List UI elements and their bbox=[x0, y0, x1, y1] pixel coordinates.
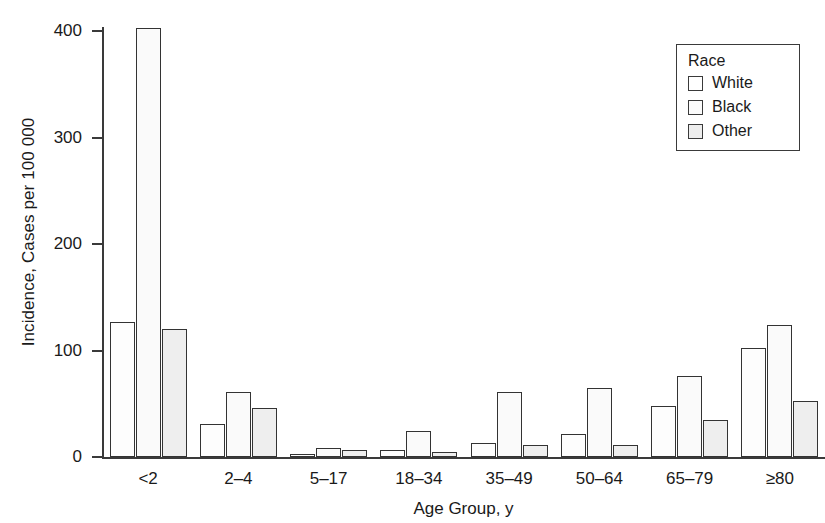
legend-entries: WhiteBlackOther bbox=[688, 71, 799, 143]
legend-swatch-icon bbox=[688, 124, 703, 139]
legend-item-other: Other bbox=[688, 119, 799, 143]
bar-white-0 bbox=[110, 322, 135, 457]
legend-item-black: Black bbox=[688, 95, 799, 119]
x-axis-group-label: 18–34 bbox=[374, 470, 464, 488]
x-axis-group-label: 65–79 bbox=[645, 470, 735, 488]
bar-other-1 bbox=[252, 408, 277, 457]
bar-other-7 bbox=[793, 401, 818, 457]
x-axis-group-label: ≥80 bbox=[735, 470, 825, 488]
bar-white-3 bbox=[380, 450, 405, 457]
x-axis-line bbox=[102, 457, 825, 459]
bar-white-1 bbox=[200, 424, 225, 457]
legend-item-label: White bbox=[712, 74, 753, 92]
bar-black-2 bbox=[316, 448, 341, 457]
bar-black-6 bbox=[677, 376, 702, 457]
legend-item-label: Black bbox=[712, 98, 751, 116]
y-axis-tick-label: 300 bbox=[12, 129, 82, 146]
y-axis-tick-label: 100 bbox=[12, 342, 82, 359]
bar-black-7 bbox=[767, 325, 792, 457]
bar-other-2 bbox=[342, 450, 367, 457]
legend-box: Race WhiteBlackOther bbox=[676, 44, 800, 151]
bar-white-6 bbox=[651, 406, 676, 457]
bar-chart-figure: Incidence, Cases per 100 000 01002003004… bbox=[0, 0, 825, 523]
x-axis-group-label: <2 bbox=[103, 470, 193, 488]
bar-other-5 bbox=[613, 445, 638, 457]
bar-black-5 bbox=[587, 388, 612, 457]
bar-black-4 bbox=[497, 392, 522, 457]
bar-white-7 bbox=[741, 348, 766, 457]
y-axis-tick-label: 400 bbox=[12, 22, 82, 39]
legend-swatch-icon bbox=[688, 76, 703, 91]
x-axis-group-label: 2–4 bbox=[193, 470, 283, 488]
x-axis-title: Age Group, y bbox=[102, 500, 825, 518]
bar-black-3 bbox=[406, 431, 431, 457]
y-axis-tick-label: 0 bbox=[12, 448, 82, 465]
bar-white-4 bbox=[471, 443, 496, 457]
legend-title: Race bbox=[688, 50, 799, 71]
y-axis-title: Incidence, Cases per 100 000 bbox=[14, 2, 44, 462]
bar-black-1 bbox=[226, 392, 251, 457]
bar-black-0 bbox=[136, 28, 161, 457]
legend-swatch-icon bbox=[688, 100, 703, 115]
legend-item-white: White bbox=[688, 71, 799, 95]
bar-other-6 bbox=[703, 420, 728, 457]
x-axis-group-label: 5–17 bbox=[284, 470, 374, 488]
legend-item-label: Other bbox=[712, 122, 752, 140]
bar-other-0 bbox=[162, 329, 187, 457]
bar-other-4 bbox=[523, 445, 548, 457]
x-axis-group-label: 35–49 bbox=[464, 470, 554, 488]
x-axis-group-label: 50–64 bbox=[554, 470, 644, 488]
bar-white-5 bbox=[561, 434, 586, 457]
y-axis-tick-label: 200 bbox=[12, 235, 82, 252]
